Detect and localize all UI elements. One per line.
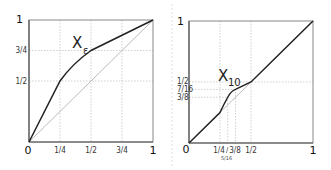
- right-xtick-1: 1: [310, 144, 317, 157]
- left-xtick-1-4: 1/4: [54, 146, 66, 155]
- left-origin: 0: [25, 144, 32, 157]
- right-chart: X 10 1 1/2 7/16 3/8 0 1/4 3/8 1/2 1 5/16: [177, 15, 317, 161]
- right-xtick-3-8: 3/8: [229, 146, 241, 155]
- right-curve-subscript: 10: [228, 77, 241, 88]
- left-chart: X ε 1 3/4 1/2 0 1/4 1/2 3/4 1: [15, 13, 156, 157]
- left-curve-subscript: ε: [83, 45, 88, 56]
- right-curve-label: X: [218, 67, 228, 85]
- right-xtick-5-16: 5/16: [221, 155, 232, 161]
- right-xtick-5-16-pointer: [227, 147, 229, 153]
- right-xtick-1-4: 1/4: [213, 146, 225, 155]
- left-xtick-1-2: 1/2: [85, 146, 97, 155]
- left-ytick-1: 1: [16, 13, 23, 26]
- left-xtick-1: 1: [150, 144, 157, 157]
- left-ytick-3-4: 3/4: [15, 46, 27, 55]
- right-ytick-1: 1: [177, 15, 184, 28]
- left-ytick-1-2: 1/2: [15, 77, 27, 86]
- left-curve-label: X: [72, 34, 82, 52]
- left-xtick-3-4: 3/4: [116, 146, 128, 155]
- right-origin: 0: [183, 143, 190, 156]
- right-xtick-1-2: 1/2: [245, 146, 257, 155]
- right-ytick-3-8: 3/8: [177, 93, 189, 102]
